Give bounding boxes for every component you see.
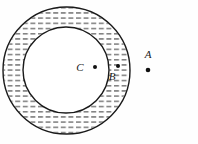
point-a-label: A xyxy=(144,48,152,60)
point-c-label: C xyxy=(76,61,84,73)
figure-canvas: C B A xyxy=(0,0,198,144)
point-c-dot xyxy=(93,65,97,69)
annulus-diagram: C B A xyxy=(0,0,198,144)
point-b-label: B xyxy=(109,70,116,82)
inner-circle-fill xyxy=(23,27,108,112)
point-a-dot xyxy=(146,68,151,73)
point-b-dot xyxy=(116,64,120,68)
